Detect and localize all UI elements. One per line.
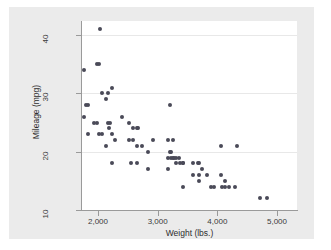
x-tick-label-4000: 4,000 <box>197 217 237 226</box>
x-tick-label-3000: 3,000 <box>138 217 178 226</box>
data-point <box>97 62 101 66</box>
data-point <box>110 86 114 90</box>
data-point <box>129 161 133 165</box>
data-point <box>104 97 108 101</box>
y-tick-10 <box>76 210 81 211</box>
data-point <box>168 103 172 107</box>
data-point <box>95 121 99 125</box>
data-point <box>100 132 104 136</box>
x-tick-2000 <box>98 211 99 216</box>
data-point <box>197 179 201 183</box>
data-point <box>86 132 90 136</box>
y-tick-label-20: 20 <box>41 151 50 181</box>
data-point <box>197 173 201 177</box>
data-point <box>197 161 201 165</box>
data-point <box>191 173 195 177</box>
data-point <box>131 138 135 142</box>
data-point <box>200 167 204 171</box>
data-point <box>120 115 124 119</box>
x-tick-5000 <box>277 211 278 216</box>
x-tick-3000 <box>158 211 159 216</box>
data-point <box>151 138 155 142</box>
data-point <box>166 138 170 142</box>
data-point <box>191 161 195 165</box>
data-point <box>110 132 114 136</box>
data-point <box>258 196 262 200</box>
x-tick-label-2000: 2,000 <box>78 217 118 226</box>
data-point <box>219 173 223 177</box>
data-point <box>166 167 170 171</box>
data-point <box>136 126 140 130</box>
data-point <box>265 196 269 200</box>
data-point <box>110 161 114 165</box>
data-point <box>169 150 173 154</box>
x-tick-label-5000: 5,000 <box>257 217 297 226</box>
data-point <box>82 68 86 72</box>
y-tick-40 <box>76 35 81 36</box>
data-point <box>212 185 216 189</box>
data-point <box>106 91 110 95</box>
y-axis-line <box>81 21 82 211</box>
gridline-y-40 <box>82 35 297 36</box>
x-axis-label: Weight (lbs.) <box>82 228 297 238</box>
data-point <box>181 185 185 189</box>
y-axis-label: Mileage (mpg) <box>31 62 41 162</box>
data-point <box>135 161 139 165</box>
y-tick-label-40: 40 <box>41 35 50 65</box>
data-point <box>177 156 181 160</box>
data-point <box>100 91 104 95</box>
data-point <box>104 144 108 148</box>
gridline-y-20 <box>82 152 297 153</box>
x-tick-4000 <box>217 211 218 216</box>
y-tick-label-30: 30 <box>41 93 50 123</box>
data-point <box>171 138 175 142</box>
gridline-y-30 <box>82 93 297 94</box>
data-point <box>181 161 185 165</box>
data-point <box>113 138 117 142</box>
y-tick-label-10: 10 <box>41 210 50 240</box>
data-point <box>146 150 150 154</box>
plot-region <box>82 21 297 210</box>
data-point <box>86 103 90 107</box>
data-point <box>235 144 239 148</box>
data-point <box>82 115 86 119</box>
data-point <box>219 144 223 148</box>
data-point <box>205 173 209 177</box>
data-point <box>131 126 135 130</box>
data-point <box>107 126 111 130</box>
data-point <box>140 144 144 148</box>
data-point <box>98 27 102 31</box>
data-point <box>108 121 112 125</box>
data-point <box>227 185 231 189</box>
data-point <box>223 179 227 183</box>
chart-canvas: 10203040 2,0003,0004,0005,000 Mileage (m… <box>9 7 314 239</box>
data-point <box>146 167 150 171</box>
y-tick-20 <box>76 152 81 153</box>
data-point <box>135 144 139 148</box>
data-point <box>233 185 237 189</box>
y-tick-30 <box>76 93 81 94</box>
data-point <box>127 121 131 125</box>
x-axis-line <box>81 210 298 211</box>
scatter-plot-figure: 10203040 2,0003,0004,0005,000 Mileage (m… <box>0 0 331 250</box>
